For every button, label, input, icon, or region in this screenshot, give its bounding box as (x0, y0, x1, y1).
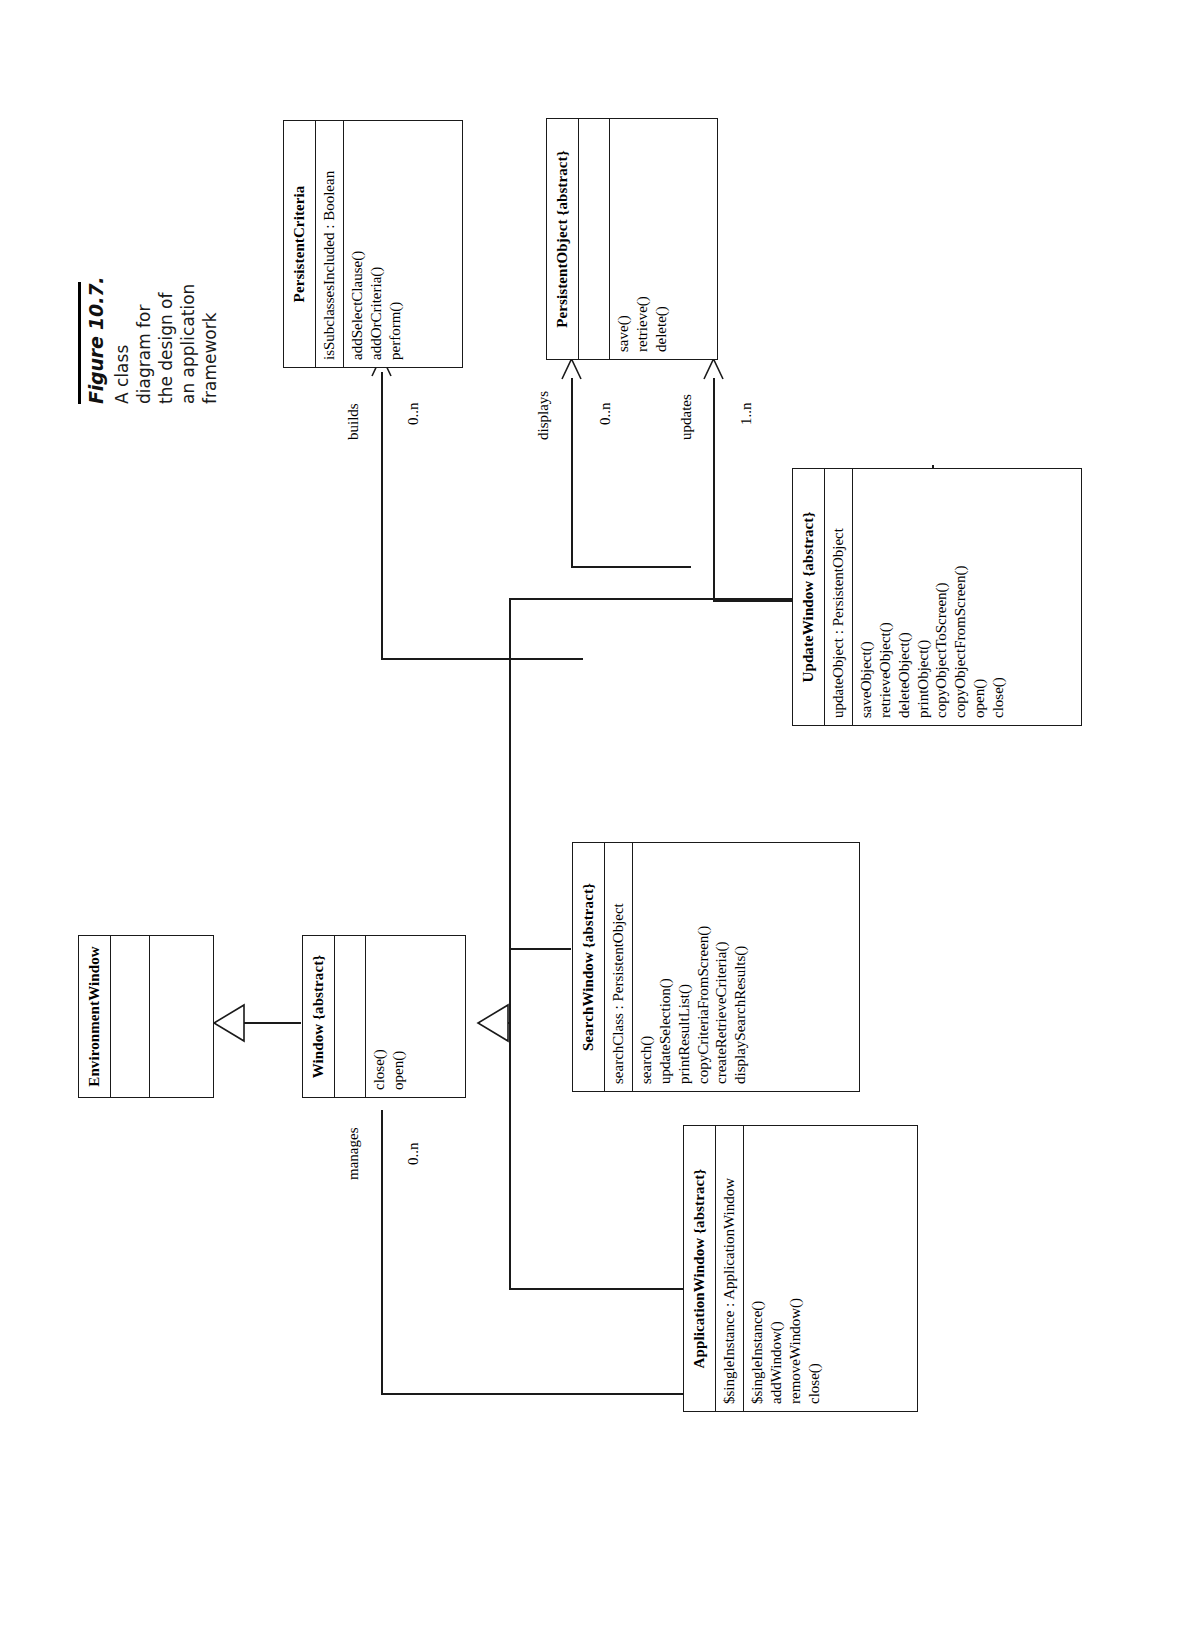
gen-branch-update (509, 598, 792, 600)
operation-row: delete() (652, 126, 671, 352)
class-name-persistent-object: PersistentObject {abstract} (547, 119, 579, 359)
operation-row: removeWindow() (786, 1133, 805, 1404)
operation-row: addWindow() (767, 1133, 786, 1404)
class-attributes-update-window: updateObject : PersistentObject (825, 469, 853, 725)
class-persistent-criteria[interactable]: PersistentCriteria isSubclassesIncluded … (283, 120, 463, 368)
class-name-application-window: ApplicationWindow {abstract} (684, 1126, 716, 1411)
operation-row: copyCriteriaFromScreen() (694, 850, 713, 1084)
assoc-mult-updates: 1..n (738, 403, 755, 426)
assoc-manages-horizontal (381, 1393, 685, 1395)
class-operations-persistent-criteria: addSelectClause() addOrCriteria() perfor… (344, 121, 462, 367)
generalization-triangle-environment-window (212, 1003, 246, 1043)
operation-row: addSelectClause() (348, 128, 367, 360)
assoc-builds-horizontal (381, 658, 583, 660)
operation-row: close() (989, 476, 1008, 718)
class-attributes-search-window: searchClass : PersistentObject (605, 843, 633, 1091)
class-environment-window[interactable]: EnvironmentWindow (78, 935, 214, 1098)
operation-row: search() (637, 850, 656, 1084)
assoc-updates-vertical (713, 378, 715, 601)
assoc-label-updates: updates (678, 394, 695, 440)
class-operations-search-window: search() updateSelection() printResultLi… (633, 843, 859, 1091)
operation-row: displaySearchResults() (731, 850, 750, 1084)
class-name-update-window: UpdateWindow {abstract} (793, 469, 825, 725)
class-attributes-persistent-object (579, 119, 610, 359)
operation-row: copyObjectFromScreen() (951, 476, 970, 718)
class-operations-persistent-object: save() retrieve() delete() (610, 119, 717, 359)
assoc-displays-horizontal (571, 566, 691, 568)
attribute-row: isSubclassesIncluded : Boolean (320, 128, 339, 360)
class-window[interactable]: Window {abstract} close() open() (302, 935, 466, 1098)
figure-caption-text: A class diagram for the design of an app… (111, 274, 221, 404)
gen-trunk-vertical (509, 598, 511, 1290)
gen-branch-application (509, 1288, 685, 1290)
class-name-window: Window {abstract} (303, 936, 335, 1097)
attribute-row: updateObject : PersistentObject (829, 476, 848, 718)
class-name-environment-window: EnvironmentWindow (79, 936, 111, 1097)
operation-row: $singleInstance() (748, 1133, 767, 1404)
operation-row: open() (970, 476, 989, 718)
assoc-label-manages: manages (345, 1128, 362, 1180)
class-attributes-application-window: $singleInstance : ApplicationWindow (716, 1126, 744, 1411)
operation-row: printObject() (914, 476, 933, 718)
assoc-builds-vertical (381, 372, 383, 660)
operation-row: printResultList() (675, 850, 694, 1084)
operation-row: updateSelection() (656, 850, 675, 1084)
attribute-row: $singleInstance : ApplicationWindow (720, 1133, 739, 1404)
assoc-displays-vertical (571, 378, 573, 568)
assoc-manages-vertical (381, 1110, 383, 1395)
class-search-window[interactable]: SearchWindow {abstract} searchClass : Pe… (572, 842, 860, 1092)
figure-caption: Figure 10.7. A class diagram for the des… (78, 104, 198, 404)
caption-rule (78, 282, 81, 404)
operation-row: retrieve() (633, 126, 652, 352)
operation-row: addOrCriteria() (367, 128, 386, 360)
class-operations-window: close() open() (366, 936, 465, 1097)
assoc-mult-displays: 0..n (597, 403, 614, 426)
operation-row: close() (805, 1133, 824, 1404)
class-persistent-object[interactable]: PersistentObject {abstract} save() retri… (546, 118, 718, 360)
operation-row: perform() (386, 128, 405, 360)
operation-row: createRetrieveCriteria() (712, 850, 731, 1084)
class-name-search-window: SearchWindow {abstract} (573, 843, 605, 1091)
figure-number: Figure 10.7. (86, 104, 108, 404)
attribute-row: searchClass : PersistentObject (609, 850, 628, 1084)
arrowhead-updates (702, 358, 726, 380)
class-name-persistent-criteria: PersistentCriteria (284, 121, 316, 367)
operation-row: open() (389, 943, 408, 1090)
operation-row: close() (370, 943, 389, 1090)
operation-row: saveObject() (857, 476, 876, 718)
generalization-triangle-window (476, 1003, 510, 1043)
class-application-window[interactable]: ApplicationWindow {abstract} $singleInst… (683, 1125, 918, 1412)
figure-page: Figure 10.7. A class diagram for the des… (0, 0, 1194, 1628)
class-operations-update-window: saveObject() retrieveObject() deleteObje… (853, 469, 1081, 725)
gen-branch-search (509, 948, 571, 950)
class-attributes-persistent-criteria: isSubclassesIncluded : Boolean (316, 121, 344, 367)
class-update-window[interactable]: UpdateWindow {abstract} updateObject : P… (792, 468, 1082, 726)
class-attributes-environment-window (111, 936, 150, 1097)
class-operations-application-window: $singleInstance() addWindow() removeWind… (744, 1126, 917, 1411)
class-operations-environment-window (150, 936, 213, 1097)
operation-row: save() (614, 126, 633, 352)
assoc-label-builds: builds (345, 403, 362, 440)
arrowhead-displays (560, 358, 584, 380)
operation-row: copyObjectToScreen() (932, 476, 951, 718)
assoc-mult-manages: 0..n (405, 1143, 422, 1166)
class-attributes-window (335, 936, 366, 1097)
operation-row: deleteObject() (895, 476, 914, 718)
assoc-label-displays: displays (535, 391, 552, 440)
operation-row: retrieveObject() (876, 476, 895, 718)
assoc-mult-builds: 0..n (405, 403, 422, 426)
